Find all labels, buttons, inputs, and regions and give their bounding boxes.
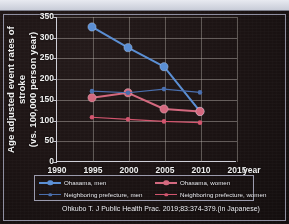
data-point (126, 117, 131, 122)
series-layer (56, 17, 236, 162)
series-line (92, 27, 200, 112)
slide-figure-screenshot: ‾‾‾ ‾‾‾‾‾ ‾‾‾ ‾ ‾‾‾‾‾ ‾‾‾‾ Age adjusted … (0, 0, 289, 224)
series-line (92, 93, 200, 112)
legend-marker-icon (155, 190, 177, 199)
x-tick-label: 2005 (145, 165, 185, 175)
x-tick-label: 1990 (37, 165, 77, 175)
legend: Ohasama, menOhasama, women Neighboring p… (34, 175, 254, 201)
data-point (160, 105, 168, 113)
y-tick-label: 150 (20, 94, 54, 104)
data-point (90, 115, 95, 120)
data-point (124, 43, 132, 51)
data-point (88, 94, 96, 102)
slide-top-strip: ‾‾‾ ‾‾‾‾‾ ‾‾‾ ‾ ‾‾‾‾‾ ‾‾‾‾ (0, 0, 289, 10)
data-point (160, 63, 168, 71)
x-axis-title: year (243, 165, 261, 175)
y-tick-label: 200 (20, 73, 54, 83)
y-tick-label: 50 (20, 135, 54, 145)
legend-item: Neighboring prefecture, men (39, 188, 142, 201)
y-tick-label: 250 (20, 52, 54, 62)
figure-panel: Age adjusted event rates of stroke (vs. … (0, 10, 289, 224)
data-point (88, 23, 96, 31)
series-line (92, 117, 200, 122)
citation-text: Ohkubo T. J Public Health Prac. 2019;83:… (62, 205, 287, 212)
legend-marker-icon (39, 178, 61, 187)
legend-marker-icon (155, 178, 177, 187)
y-tick-label: 300 (20, 32, 54, 42)
x-tick-label: 2000 (109, 165, 149, 175)
x-gridline (237, 17, 238, 162)
data-point (198, 120, 203, 125)
data-point (198, 90, 203, 95)
data-point (162, 119, 167, 124)
data-point (196, 107, 204, 115)
legend-marker-icon (39, 190, 61, 199)
data-point (162, 87, 167, 92)
legend-label: Ohasama, women (180, 179, 230, 186)
legend-label: Ohasama, men (64, 179, 106, 186)
data-point (90, 89, 95, 94)
y-tick-label: 350 (20, 11, 54, 21)
legend-label: Neighboring prefecture, women (180, 191, 266, 198)
legend-row: Neighboring prefecture, menNeighboring p… (35, 188, 255, 201)
legend-item: Neighboring prefecture, women (155, 188, 266, 201)
x-tick-label: 1995 (73, 165, 113, 175)
cropped-header-text: ‾‾‾ ‾‾‾‾‾ ‾‾‾ ‾ ‾‾‾‾‾ ‾‾‾‾ (6, 0, 125, 3)
y-tick-label: 100 (20, 115, 54, 125)
legend-label: Neighboring prefecture, men (64, 191, 142, 198)
x-tick-label: 2010 (181, 165, 221, 175)
data-point (126, 91, 131, 96)
